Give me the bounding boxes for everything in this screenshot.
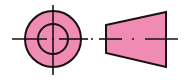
end-view: [12, 5, 93, 75]
frustum-projection-diagram: [0, 0, 187, 82]
side-view: [99, 12, 178, 67]
